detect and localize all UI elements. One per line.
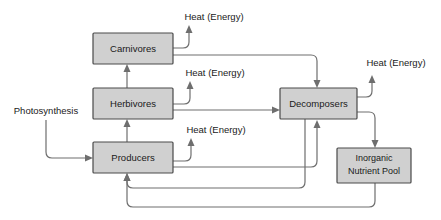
- node-inorganic-nutrient-pool-label-line1: Inorganic: [355, 153, 393, 163]
- node-inorganic-nutrient-pool[interactable]: Inorganic Nutrient Pool: [337, 148, 411, 183]
- node-decomposers[interactable]: Decomposers: [280, 88, 357, 119]
- node-herbivores-label: Herbivores: [110, 98, 156, 109]
- node-producers-label: Producers: [111, 152, 155, 163]
- node-producers[interactable]: Producers: [93, 142, 173, 173]
- node-decomposers-label: Decomposers: [289, 98, 348, 109]
- label-heat-energy-carnivores: Heat (Energy): [184, 11, 243, 22]
- node-carnivores-label: Carnivores: [110, 43, 156, 54]
- node-inorganic-nutrient-pool-label-line2: Nutrient Pool: [348, 166, 400, 176]
- node-herbivores[interactable]: Herbivores: [93, 88, 173, 119]
- label-heat-energy-herbivores: Heat (Energy): [185, 67, 244, 78]
- flow-herbivores-to-carnivores: [124, 64, 131, 88]
- flow-herbivores-heat: [173, 81, 194, 104]
- flow-photosynthesis-to-producers: [46, 120, 93, 162]
- label-heat-energy-producers: Heat (Energy): [186, 124, 245, 135]
- label-heat-energy-decomposers: Heat (Energy): [366, 57, 425, 68]
- flow-herbivores-to-decomposers: [173, 107, 280, 114]
- flow-producers-heat: [173, 138, 195, 161]
- flow-producers-to-herbivores: [124, 119, 131, 142]
- ecosystem-flow-diagram: Carnivores Herbivores Producers Decompos…: [0, 0, 441, 220]
- flow-decomposers-to-nutrient-pool: [357, 112, 379, 148]
- node-carnivores[interactable]: Carnivores: [93, 33, 173, 64]
- flow-carnivores-heat: [173, 25, 193, 48]
- label-photosynthesis: Photosynthesis: [14, 105, 79, 116]
- flow-decomposers-heat: [357, 75, 376, 97]
- diagram-canvas: Carnivores Herbivores Producers Decompos…: [0, 0, 441, 220]
